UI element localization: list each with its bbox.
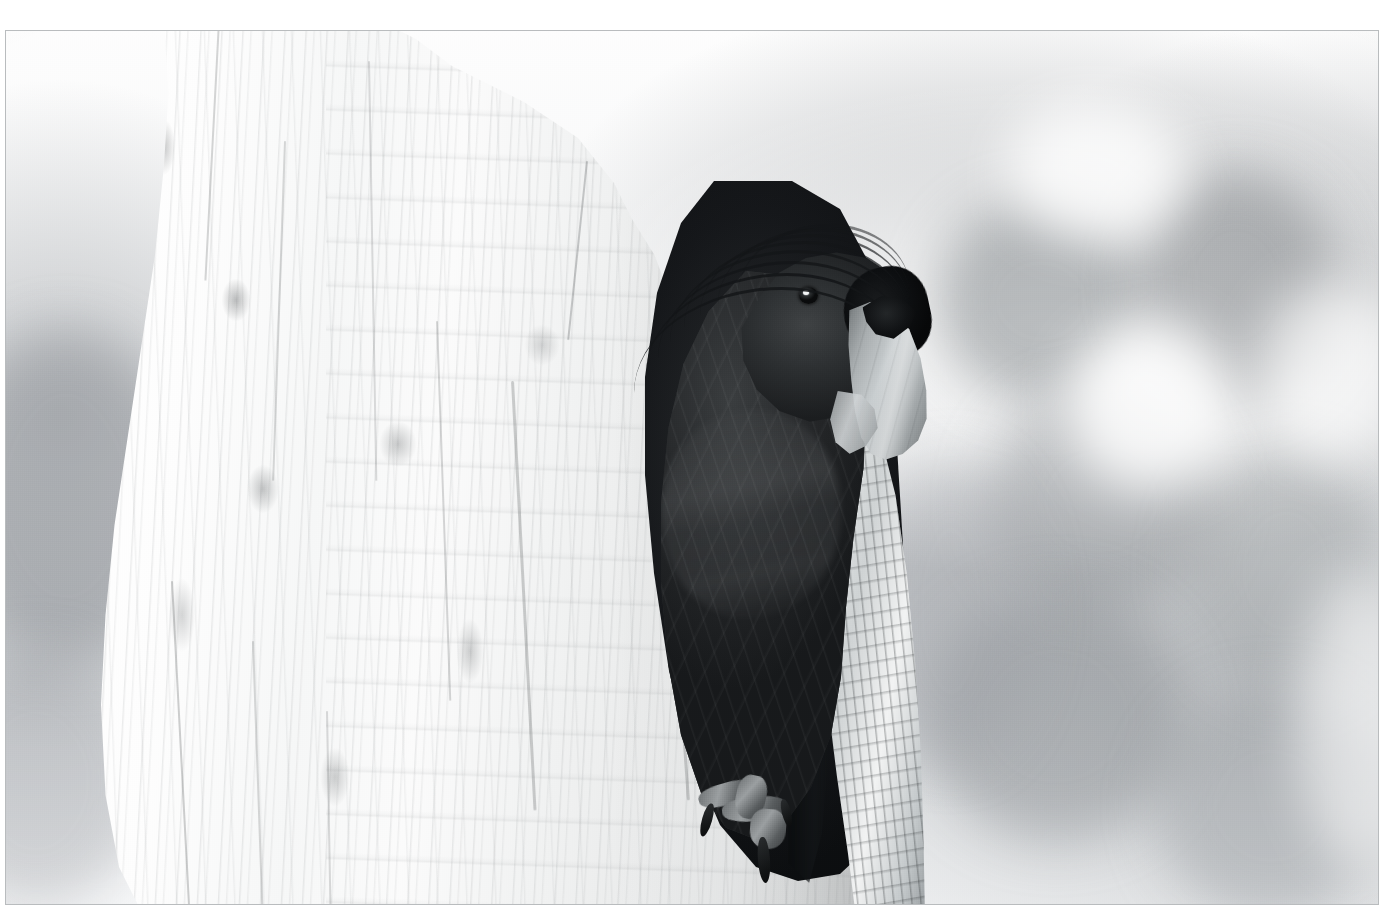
cockatoo-foot	[696, 769, 846, 889]
claw	[698, 802, 717, 837]
photograph	[6, 31, 1378, 904]
screenshot-root	[0, 0, 1399, 915]
breast-highlight	[661, 410, 841, 619]
photo-border	[5, 30, 1379, 905]
cockatoo	[6, 31, 1378, 904]
